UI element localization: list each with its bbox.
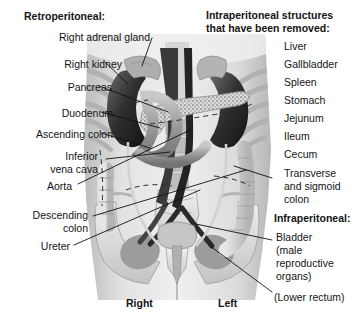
removed-structure-stomach: Stomach xyxy=(284,94,325,107)
removed-structure-transverse-sigmoid-colon-line3: colon xyxy=(284,193,309,206)
infraperitoneal-heading: Infraperitoneal: xyxy=(274,212,350,225)
removed-structure-gallbladder: Gallbladder xyxy=(284,58,338,71)
infra-item-bladder-line3: reproductive xyxy=(276,257,334,270)
left-adrenal-gland xyxy=(197,56,227,80)
label-pancreas: Pancreas xyxy=(0,81,112,94)
label-lower-rectum: (Lower rectum) xyxy=(274,291,345,304)
removed-structure-transverse-sigmoid-colon-line1: Transverse xyxy=(284,167,336,180)
label-right-adrenal-gland: Right adrenal gland xyxy=(0,31,150,44)
label-ureter: Ureter xyxy=(0,240,70,253)
label-descending-colon-line2: colon xyxy=(0,222,88,235)
infra-item-bladder-line1: Bladder xyxy=(276,231,312,244)
orientation-label-right: Right xyxy=(126,297,153,310)
label-aorta: Aorta xyxy=(0,180,72,193)
label-descending-colon-line1: Descending xyxy=(0,209,88,222)
label-inferior-vena-cava-line2: vena cava xyxy=(0,163,98,176)
removed-structure-liver: Liver xyxy=(284,40,307,53)
intraperitoneal-heading-line2: that have been removed: xyxy=(206,22,330,35)
label-ascending-colon: Ascending colon xyxy=(0,128,113,141)
anatomy-figure: Retroperitoneal: Right adrenal gland Rig… xyxy=(0,0,353,317)
intraperitoneal-heading-line1: Intraperitoneal structures xyxy=(206,9,333,22)
infra-item-bladder-line4: organs) xyxy=(276,270,312,283)
orientation-label-left: Left xyxy=(218,297,237,310)
bladder xyxy=(157,222,196,249)
label-inferior-vena-cava-line1: Inferior xyxy=(0,150,98,163)
retroperitoneal-heading: Retroperitoneal: xyxy=(24,10,105,23)
removed-structure-cecum: Cecum xyxy=(284,148,317,161)
removed-structure-transverse-sigmoid-colon-line2: and sigmoid xyxy=(284,180,341,193)
label-right-kidney: Right kidney xyxy=(0,58,122,71)
label-duodenum: Duodenum xyxy=(0,107,113,120)
removed-structure-jejunum: Jejunum xyxy=(284,112,324,125)
removed-structure-ileum: Ileum xyxy=(284,130,310,143)
removed-structure-spleen: Spleen xyxy=(284,76,317,89)
infra-item-bladder-line2: (male xyxy=(276,244,302,257)
